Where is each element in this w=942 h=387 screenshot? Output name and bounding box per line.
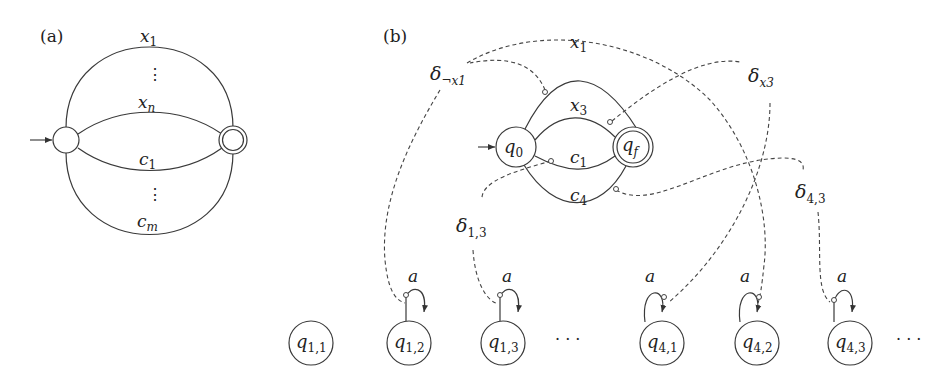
delta-label-4-3: δ4,3	[795, 180, 826, 206]
edge-attach-x3	[608, 120, 613, 125]
panel-a: (a) x1 ⋮ xn c1 ⋮ cm	[30, 26, 247, 235]
delta-label-neg-x1: δ¬x1	[430, 62, 466, 88]
vdots-bottom: ⋮	[147, 185, 163, 204]
edge-attach-x1	[543, 90, 548, 95]
ellipsis-2: · · ·	[896, 330, 921, 349]
edge-attach-c1	[549, 159, 554, 164]
loop-q43	[834, 290, 853, 322]
delta-4-3-lower	[818, 212, 830, 302]
delta-neg-x1-to-q42	[467, 40, 765, 303]
edge-xn	[78, 112, 222, 134]
loop-label-q41: a	[645, 266, 655, 286]
delta-label-1-3: δ1,3	[456, 214, 487, 240]
edge-label-c1: c1	[139, 149, 156, 172]
loop-attach-q42	[757, 295, 762, 300]
edge-label-c4: c4	[570, 185, 588, 208]
vdots-top: ⋮	[147, 65, 163, 84]
delta-label-x3: δx3	[748, 64, 774, 90]
delta-x3-lower	[668, 103, 770, 303]
panel-a-label: (a)	[40, 26, 63, 46]
bottom-states: q1,1 a q1,2 a q1,3 · · · a q4,1 a	[289, 266, 921, 365]
edge-label-cm: cm	[137, 211, 158, 234]
loop-label-q42: a	[740, 266, 750, 286]
edge-x1	[66, 47, 233, 128]
edge-x3	[535, 118, 615, 140]
loop-label-q43: a	[837, 266, 847, 286]
loop-q41	[644, 293, 662, 322]
edge-label-x1: x1	[570, 32, 587, 55]
state-final	[219, 126, 247, 154]
state-initial	[53, 127, 79, 153]
edge-label-xn: xn	[138, 92, 155, 115]
loop-attach-q13	[498, 293, 503, 298]
loop-attach-q43	[832, 298, 837, 303]
edge-attach-c4	[614, 187, 619, 192]
loop-label-q12: a	[408, 266, 418, 286]
edge-label-c1: c1	[570, 147, 587, 170]
panel-b: (b) q0 qf x1 x3 c1 c4	[289, 26, 921, 365]
delta-1-3-lower	[473, 250, 498, 304]
loop-label-q13: a	[502, 266, 512, 286]
delta-neg-x1-upper	[470, 60, 545, 90]
delta-x3-upper	[612, 61, 740, 121]
loop-attach-q12	[404, 293, 409, 298]
edge-label-x3: x3	[570, 95, 587, 118]
ellipsis-1: · · ·	[555, 330, 580, 349]
edge-label-x1: x1	[140, 26, 157, 49]
loop-attach-q41	[662, 295, 667, 300]
diagram-canvas: (a) x1 ⋮ xn c1 ⋮ cm (b) q0 qf	[0, 0, 942, 387]
loop-q42	[739, 293, 757, 322]
panel-b-label: (b)	[383, 26, 407, 46]
